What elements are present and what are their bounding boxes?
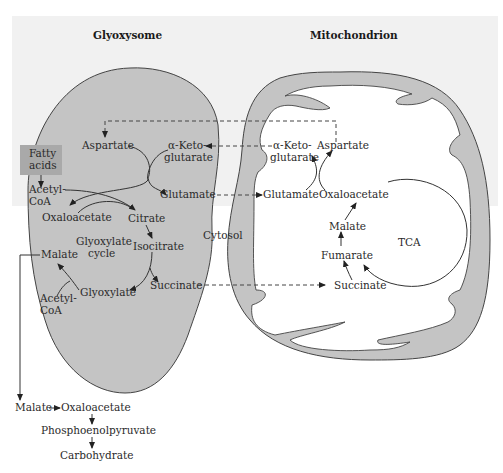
cytosol-oxaloacetate-label: Oxaloacetate — [61, 401, 131, 413]
acetyl-coa-label-line1: Acetyl- — [28, 183, 66, 195]
succinate-label: Succinate — [150, 279, 203, 291]
acetyl-coa-2-label-line1: Acetyl- — [39, 292, 77, 304]
phosphoenolpyruvate-label: Phosphoenolpyruvate — [41, 424, 156, 436]
alpha-ketoglutarate-label-line2: glutarate — [164, 151, 213, 163]
glutamate-label: Glutamate — [160, 188, 216, 200]
glyoxylate-label: Glyoxylate — [80, 286, 136, 298]
mito-succinate-label: Succinate — [334, 279, 387, 291]
cytosol-label: Cytosol — [203, 229, 243, 241]
mito-malate-label: Malate — [329, 220, 366, 232]
mito-oxaloacetate-label: Oxaloacetate — [319, 188, 389, 200]
oxaloacetate-label: Oxaloacetate — [42, 211, 112, 223]
glyoxylate-cycle-diagram: Glyoxysome Mitochondrion Fatty acids Asp… — [0, 0, 503, 473]
mito-aspartate-label: Aspartate — [316, 139, 369, 151]
glyoxysome-membrane — [28, 68, 219, 393]
fatty-acids-label-line2: acids — [29, 159, 57, 171]
glyoxylate-cycle-label-line2: cycle — [88, 247, 115, 259]
glyoxylate-cycle-label-line1: Glyoxylate — [76, 235, 132, 247]
tca-label: TCA — [398, 236, 421, 248]
fatty-acids-label-line1: Fatty — [29, 147, 56, 159]
mitochondrion-matrix — [252, 85, 471, 350]
citrate-label: Citrate — [128, 212, 165, 224]
mitochondrion-title: Mitochondrion — [310, 29, 398, 41]
acetyl-coa-2-label-line2: CoA — [40, 304, 62, 316]
mito-glutamate-label: Glutamate — [263, 188, 319, 200]
acetyl-coa-label-line2: CoA — [29, 195, 51, 207]
carbohydrate-label: Carbohydrate — [60, 449, 134, 461]
mito-fumarate-label: Fumarate — [321, 249, 373, 261]
alpha-ketoglutarate-label-line1: α-Keto- — [168, 139, 207, 151]
glyoxysome-title: Glyoxysome — [93, 29, 162, 41]
cytosol-malate-label: Malate — [15, 401, 52, 413]
mito-alpha-ketoglutarate-label-line2: glutarate — [270, 151, 319, 163]
mito-alpha-ketoglutarate-label-line1: α-Keto- — [273, 139, 312, 151]
malate-label: Malate — [41, 248, 78, 260]
isocitrate-label: Isocitrate — [133, 240, 184, 252]
aspartate-label: Aspartate — [81, 139, 134, 151]
